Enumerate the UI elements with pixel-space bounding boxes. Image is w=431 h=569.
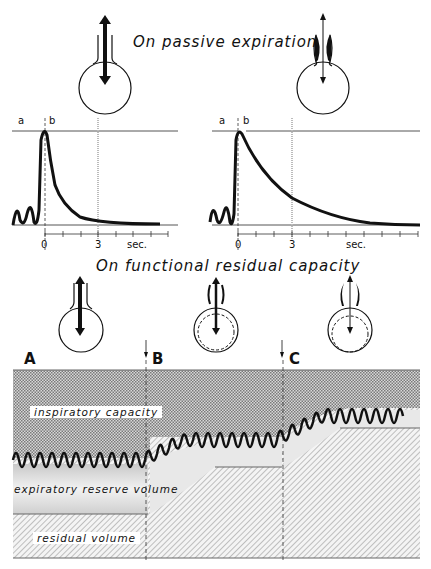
right-graph-label-b: b bbox=[243, 115, 249, 126]
left-graph-tick-0: 0 bbox=[41, 239, 47, 250]
section-title-frc: On functional residual capacity bbox=[96, 257, 360, 275]
left-volume-time-graph bbox=[12, 118, 178, 250]
left-graph-label-b: b bbox=[49, 115, 55, 126]
label-residual-volume: residual volume bbox=[33, 532, 140, 544]
right-graph-tick-3: 3 bbox=[289, 239, 295, 250]
right-graph-unit: sec. bbox=[346, 239, 366, 250]
marker-c: C bbox=[289, 350, 300, 368]
marker-arrow-c bbox=[280, 340, 284, 358]
right-graph-tick-0: 0 bbox=[235, 239, 241, 250]
section-title-passive-expiration: On passive expiration bbox=[133, 33, 317, 51]
thin-double-arrow-icon bbox=[320, 13, 326, 84]
left-graph-unit: sec. bbox=[127, 239, 147, 250]
lung-volume-diagram bbox=[13, 360, 420, 560]
marker-b: B bbox=[152, 350, 163, 368]
right-graph-label-a: a bbox=[219, 115, 225, 126]
label-expiratory-reserve-volume: expiratory reserve volume bbox=[10, 483, 182, 495]
lung-c-icon bbox=[328, 275, 372, 352]
label-inspiratory-capacity: inspiratory capacity bbox=[30, 406, 162, 418]
marker-a: A bbox=[24, 350, 36, 368]
marker-arrow-b bbox=[144, 340, 148, 358]
right-volume-time-graph bbox=[210, 118, 420, 250]
thick-double-arrow-icon bbox=[99, 15, 111, 85]
left-graph-label-a: a bbox=[18, 115, 24, 126]
left-graph-tick-3: 3 bbox=[95, 239, 101, 250]
lung-a-icon bbox=[59, 276, 103, 352]
lung-b-icon bbox=[194, 277, 238, 352]
